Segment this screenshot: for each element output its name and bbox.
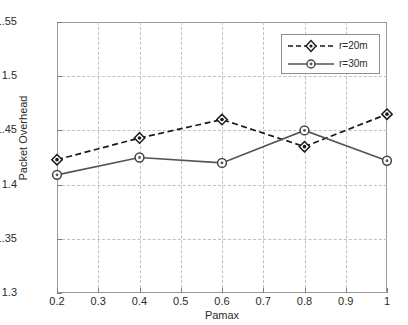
x-tick-label: 0.4 [120, 296, 160, 307]
legend-item-r20: r=20m [282, 36, 379, 56]
x-tick-label: 0.3 [78, 296, 118, 307]
x-tick-label: 0.9 [326, 296, 366, 307]
data-point-center [138, 136, 142, 140]
data-point-center [138, 156, 141, 159]
y-tick-label: 1.3 [0, 287, 17, 298]
y-tick-mark [57, 293, 62, 294]
data-point-center [220, 118, 224, 122]
data-point-center [386, 159, 389, 162]
legend-sample-solid-circle [286, 54, 336, 74]
data-point-center [56, 173, 59, 176]
y-tick-label: 1.35 [0, 233, 17, 244]
y-tick-label: 1.5 [0, 70, 17, 81]
data-point-center [221, 162, 224, 165]
legend-sample-dashed-diamond [286, 36, 336, 56]
x-tick-label: 0.8 [285, 296, 325, 307]
x-tick-label: 0.2 [37, 296, 77, 307]
x-tick-label: 0.5 [161, 296, 201, 307]
data-point-center [385, 112, 389, 116]
x-tick-label: 0.7 [243, 296, 283, 307]
y-axis-label: Packet Overhead [17, 63, 29, 213]
x-axis-label: Pamax [57, 309, 387, 321]
legend: r=20m r=30m [281, 34, 380, 74]
chart-figure: 1.31.351.41.451.51.550.20.30.40.50.60.70… [0, 0, 408, 325]
legend-label-r20: r=20m [339, 40, 368, 51]
legend-label-r30: r=30m [339, 58, 368, 69]
x-tick-mark [387, 288, 388, 293]
data-point-center [303, 145, 307, 149]
x-tick-label: 1 [367, 296, 407, 307]
legend-item-r30: r=30m [282, 54, 379, 74]
data-point-center [303, 129, 306, 132]
y-tick-label: 1.45 [0, 124, 17, 135]
data-point-center [55, 158, 59, 162]
x-tick-label: 0.6 [202, 296, 242, 307]
y-tick-label: 1.4 [0, 179, 17, 190]
y-tick-label: 1.55 [0, 16, 17, 27]
series-line-r=30m [57, 130, 387, 174]
